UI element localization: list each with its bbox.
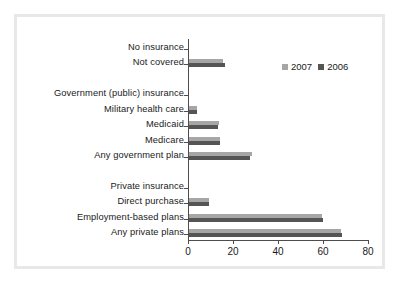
x-axis-tick (368, 240, 369, 244)
x-axis-tick-label: 0 (185, 246, 191, 257)
y-axis-label: Any private plans (111, 227, 184, 238)
y-axis-label: Any government plan (94, 150, 184, 161)
chart-frame: No insuranceNot coveredGovernment (publi… (14, 14, 385, 269)
y-axis-label: Employment-based plans (77, 212, 184, 223)
y-axis-tick (184, 203, 188, 204)
y-axis-tick (184, 234, 188, 235)
y-axis-tick (184, 142, 188, 143)
y-axis-label: Not covered (133, 57, 184, 68)
y-axis-tick (184, 219, 188, 220)
bar-2006 (189, 110, 197, 114)
bar-2006 (189, 156, 250, 160)
y-axis-category-labels: No insuranceNot coveredGovernment (publi… (17, 17, 184, 272)
chart-container: No insuranceNot coveredGovernment (publi… (17, 17, 388, 272)
y-axis-label: Medicaid (146, 119, 184, 130)
y-axis-tick (184, 95, 188, 96)
y-axis-label: No insurance (128, 42, 184, 53)
y-axis-label: Military health care (104, 104, 184, 115)
x-axis-tick-label: 40 (272, 246, 283, 257)
legend-label-2007: 2007 (291, 61, 312, 72)
y-axis-tick (184, 188, 188, 189)
bar-2006 (189, 233, 342, 237)
legend-swatch-2006-icon (318, 64, 324, 70)
x-axis-tick-label: 60 (317, 246, 328, 257)
y-axis-label: Government (public) insurance (54, 88, 184, 99)
x-axis-tick (278, 240, 279, 244)
y-axis-tick (184, 157, 188, 158)
bar-2006 (189, 125, 218, 129)
x-axis-tick (323, 240, 324, 244)
legend-label-2006: 2006 (327, 61, 348, 72)
legend-item-2006: 2006 (318, 61, 348, 72)
y-axis-label: Direct purchase (117, 196, 184, 207)
y-axis-label: Private insurance (110, 181, 184, 192)
chart-legend: 2007 2006 (282, 61, 348, 72)
y-axis-tick (184, 49, 188, 50)
x-axis-tick-label: 80 (362, 246, 373, 257)
y-axis-tick (184, 64, 188, 65)
y-axis-tick (184, 111, 188, 112)
y-axis-label: Medicare (145, 135, 184, 146)
x-axis-tick (188, 240, 189, 244)
bar-2006 (189, 141, 220, 145)
bar-2006 (189, 63, 225, 67)
legend-swatch-2007-icon (282, 64, 288, 70)
bar-2006 (189, 218, 323, 222)
y-axis-tick (184, 126, 188, 127)
legend-item-2007: 2007 (282, 61, 312, 72)
x-axis-tick-label: 20 (227, 246, 238, 257)
x-axis-tick (233, 240, 234, 244)
bar-2006 (189, 202, 209, 206)
